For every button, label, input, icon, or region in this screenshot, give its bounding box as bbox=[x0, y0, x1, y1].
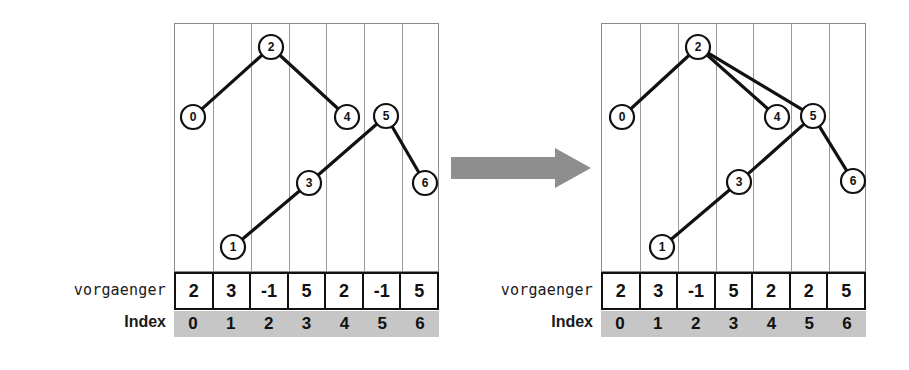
vorgaenger-cell: -1 bbox=[678, 274, 716, 308]
vorgaenger-cell: 3 bbox=[641, 274, 679, 308]
edge-group bbox=[201, 54, 419, 240]
node-label: 4 bbox=[344, 110, 351, 124]
tree-node: 0 bbox=[610, 105, 634, 129]
index-array-before: 0 1 2 3 4 5 6 bbox=[174, 311, 439, 337]
tree-node: 4 bbox=[335, 105, 359, 129]
vorgaenger-cell: 5 bbox=[716, 274, 754, 308]
vorgaenger-cell: 5 bbox=[828, 274, 864, 308]
index-cell: 4 bbox=[752, 311, 790, 337]
vorgaenger-cell: 2 bbox=[603, 274, 641, 308]
node-label: 3 bbox=[736, 175, 743, 189]
index-cell: 2 bbox=[250, 311, 288, 337]
tree-edge bbox=[241, 190, 300, 240]
vorgaenger-cell: -1 bbox=[251, 274, 289, 308]
tree-node: 3 bbox=[727, 170, 751, 194]
figure-root: 0123456 vorgaenger 2 3 -1 5 2 -1 5 Index… bbox=[0, 0, 909, 370]
tree-node: 6 bbox=[841, 169, 865, 193]
index-cell: 4 bbox=[325, 311, 363, 337]
node-label: 5 bbox=[810, 109, 817, 123]
node-label: 0 bbox=[619, 110, 626, 124]
index-cell: 1 bbox=[212, 311, 250, 337]
tree-node: 5 bbox=[374, 104, 398, 128]
index-cell: 3 bbox=[288, 311, 326, 337]
tree-node: 0 bbox=[181, 105, 205, 129]
vorgaenger-cell: 5 bbox=[289, 274, 327, 308]
tree-node: 1 bbox=[650, 235, 674, 259]
index-cell: 0 bbox=[601, 311, 639, 337]
vorgaenger-cell: 2 bbox=[326, 274, 364, 308]
vorgaenger-cell: 2 bbox=[176, 274, 214, 308]
tree-edge bbox=[747, 123, 805, 174]
vorgaenger-cell: 2 bbox=[753, 274, 791, 308]
node-label: 2 bbox=[695, 40, 702, 54]
node-label: 2 bbox=[268, 40, 275, 54]
vorgaenger-cell: -1 bbox=[364, 274, 402, 308]
vorgaenger-cell: 2 bbox=[791, 274, 829, 308]
tree-edge bbox=[201, 54, 263, 109]
vorgaenger-row-label: vorgaenger bbox=[441, 281, 593, 299]
node-label: 3 bbox=[306, 176, 313, 190]
vorgaenger-cell: 3 bbox=[214, 274, 252, 308]
node-label: 1 bbox=[230, 240, 237, 254]
tree-node: 2 bbox=[686, 35, 710, 59]
forest-graph-before: 0123456 bbox=[174, 23, 439, 272]
tree-edge bbox=[630, 54, 690, 109]
node-label: 0 bbox=[190, 110, 197, 124]
node-group: 0123456 bbox=[610, 35, 865, 259]
index-array-after: 0 1 2 3 4 5 6 bbox=[601, 311, 866, 337]
tree-node: 2 bbox=[259, 35, 283, 59]
index-cell: 3 bbox=[715, 311, 753, 337]
index-cell: 5 bbox=[790, 311, 828, 337]
index-row-label: Index bbox=[14, 313, 166, 331]
panel-after: 0123456 vorgaenger 2 3 -1 5 2 2 5 Index … bbox=[427, 0, 882, 370]
node-group: 0123456 bbox=[181, 35, 437, 259]
edge-group bbox=[630, 53, 847, 240]
tree-node: 4 bbox=[765, 105, 789, 129]
tree-node: 3 bbox=[297, 171, 321, 195]
vorgaenger-row-label: vorgaenger bbox=[14, 281, 166, 299]
tree-edge bbox=[670, 189, 730, 240]
tree-node: 5 bbox=[801, 104, 825, 128]
index-cell: 1 bbox=[639, 311, 677, 337]
node-label: 1 bbox=[659, 240, 666, 254]
vorgaenger-array-after: 2 3 -1 5 2 2 5 bbox=[601, 272, 866, 310]
index-cell: 2 bbox=[677, 311, 715, 337]
tree-edge bbox=[279, 54, 339, 109]
tree-node: 1 bbox=[221, 235, 245, 259]
forest-graph-after: 0123456 bbox=[601, 23, 866, 272]
index-cell: 5 bbox=[363, 311, 401, 337]
node-label: 5 bbox=[383, 109, 390, 123]
index-row-label: Index bbox=[441, 313, 593, 331]
tree-edge bbox=[819, 125, 847, 171]
node-label: 4 bbox=[774, 110, 781, 124]
tree-edge bbox=[707, 53, 803, 111]
index-cell: 0 bbox=[174, 311, 212, 337]
index-cell: 6 bbox=[828, 311, 866, 337]
vorgaenger-array-before: 2 3 -1 5 2 -1 5 bbox=[174, 272, 439, 310]
node-label: 6 bbox=[850, 174, 857, 188]
panel-before: 0123456 vorgaenger 2 3 -1 5 2 -1 5 Index… bbox=[0, 0, 455, 370]
tree-edge bbox=[317, 123, 377, 176]
tree-edge bbox=[392, 126, 420, 174]
